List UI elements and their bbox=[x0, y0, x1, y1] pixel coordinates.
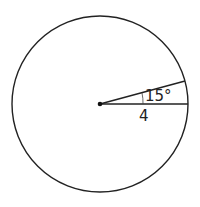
center-point bbox=[98, 102, 103, 107]
angle-arc-marker bbox=[142, 93, 143, 104]
circle-diagram: 15° 4 bbox=[0, 0, 200, 207]
angle-label: 15° bbox=[145, 87, 172, 105]
radius-label: 4 bbox=[139, 107, 149, 125]
radius-angled bbox=[100, 81, 185, 104]
